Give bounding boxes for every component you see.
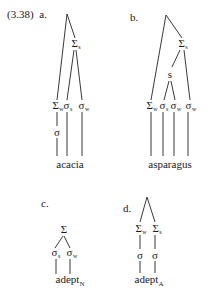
tree-d-foot-strong: Σs <box>152 223 161 235</box>
tree-a-branches <box>57 14 82 156</box>
tree-a-syllable-strong: σs <box>64 100 73 112</box>
tree-c-syllable-weak: σw <box>67 247 78 259</box>
tree-c-label: c. <box>41 198 49 209</box>
tree-a-syllable: σ <box>54 127 60 138</box>
tree-b-syllable-strong: σs <box>160 100 169 112</box>
tree-a-foot-weak: Σw <box>52 100 63 112</box>
tree-d-syllable-1: σ <box>137 250 143 261</box>
tree-d-syllable-2: σ <box>152 250 158 261</box>
tree-d-word: adeptA <box>135 274 164 288</box>
tree-d-branches <box>140 197 155 273</box>
tree-a-word: acacia <box>56 159 83 170</box>
tree-b-foot-weak: Σw <box>146 100 157 112</box>
tree-a-syllable-weak: σw <box>79 100 90 112</box>
tree-b-word: asparagus <box>148 159 191 170</box>
tree-branches <box>0 0 208 300</box>
example-number: (3.38) a. <box>7 9 47 20</box>
tree-b-s-node: s <box>168 69 172 80</box>
tree-b-label: b. <box>130 12 138 23</box>
tree-d-label: d. <box>123 203 131 214</box>
tree-b-foot-strong: Σs <box>178 38 187 50</box>
prosodic-tree-figure: (3.38) a. Σs Σw σs σw σ acacia b. Σs s Σ… <box>0 0 208 300</box>
tree-a-foot-strong: Σs <box>71 38 80 50</box>
tree-c-foot: Σ <box>61 224 67 235</box>
example-number-text: (3.38) <box>7 8 34 20</box>
tree-c-word: adeptN <box>56 274 85 288</box>
tree-c-syllable-strong: σs <box>52 247 61 259</box>
tree-b-syllable-weak-1: σw <box>171 100 182 112</box>
tree-b-syllable-weak-2: σw <box>186 100 197 112</box>
tree-d-foot-weak: Σw <box>135 223 146 235</box>
tree-a-label: a. <box>39 8 47 20</box>
